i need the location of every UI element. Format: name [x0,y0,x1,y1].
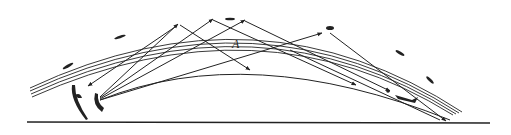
ray-10 [290,50,440,120]
receiver-dot [386,89,390,93]
ground-line [27,122,490,123]
ray-3 [100,19,213,98]
propagation-diagram [0,0,511,135]
ray-5 [100,20,245,99]
ray-6 [245,21,390,91]
label-region-a: A [232,37,239,52]
rays [88,19,446,121]
antenna-transmitter [72,85,104,120]
ray-4 [213,20,356,85]
